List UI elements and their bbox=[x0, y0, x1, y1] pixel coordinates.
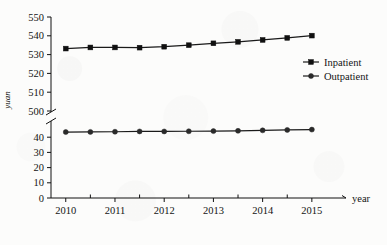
data-point-outpatient bbox=[88, 129, 93, 134]
y-tick-label: 10 bbox=[34, 177, 45, 188]
data-point-inpatient bbox=[88, 45, 93, 50]
y-tick-label: 530 bbox=[28, 49, 44, 60]
data-point-outpatient bbox=[162, 129, 167, 134]
x-tick-label: 2015 bbox=[301, 205, 322, 216]
data-point-inpatient bbox=[211, 41, 216, 46]
y-tick-label: 30 bbox=[34, 147, 45, 158]
data-point-outpatient bbox=[309, 127, 314, 132]
data-point-inpatient bbox=[236, 39, 241, 44]
data-point-inpatient bbox=[137, 45, 142, 50]
y-tick-label: 20 bbox=[34, 162, 45, 173]
data-point-inpatient bbox=[63, 46, 68, 51]
legend-marker-circle bbox=[309, 74, 314, 79]
data-point-outpatient bbox=[63, 130, 68, 135]
y-tick-label: 520 bbox=[28, 68, 44, 79]
x-tick-label: 2012 bbox=[154, 205, 175, 216]
data-point-inpatient bbox=[260, 38, 265, 43]
y-tick-label: 40 bbox=[34, 132, 45, 143]
line-chart-plot: 5005105205305405500102030402010201120122… bbox=[0, 0, 387, 245]
data-point-outpatient bbox=[186, 129, 191, 134]
y-axis-title: yuan bbox=[2, 91, 12, 110]
y-tick-label: 540 bbox=[28, 30, 44, 41]
x-tick-label: 2011 bbox=[105, 205, 126, 216]
data-point-outpatient bbox=[137, 129, 142, 134]
data-point-inpatient bbox=[309, 33, 314, 38]
x-tick-label: 2010 bbox=[55, 205, 76, 216]
y-tick-label: 500 bbox=[28, 106, 44, 117]
legend-marker-square bbox=[309, 60, 314, 65]
y-tick-label: 0 bbox=[39, 193, 44, 204]
chart-figure: 5005105205305405500102030402010201120122… bbox=[0, 0, 387, 245]
data-point-outpatient bbox=[236, 128, 241, 133]
data-point-inpatient bbox=[162, 44, 167, 49]
data-point-inpatient bbox=[113, 45, 118, 50]
x-tick-label: 2013 bbox=[203, 205, 224, 216]
legend-label-outpatient: Outpatient bbox=[324, 71, 368, 82]
x-tick-label: 2014 bbox=[252, 205, 274, 216]
legend-label-inpatient: Inpatient bbox=[324, 57, 361, 68]
data-point-outpatient bbox=[112, 129, 117, 134]
data-point-outpatient bbox=[285, 127, 290, 132]
y-tick-label: 550 bbox=[28, 12, 44, 23]
data-point-inpatient bbox=[186, 43, 191, 48]
data-point-outpatient bbox=[211, 129, 216, 134]
x-axis-title: year bbox=[352, 193, 371, 204]
data-point-inpatient bbox=[285, 35, 290, 40]
y-tick-label: 510 bbox=[28, 87, 44, 98]
data-point-outpatient bbox=[260, 128, 265, 133]
